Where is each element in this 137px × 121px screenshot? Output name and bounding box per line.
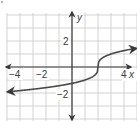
x-tick-4: 4 xyxy=(121,69,127,80)
x-tick-neg4: −4 xyxy=(9,69,21,80)
y-tick-neg2: −2 xyxy=(57,89,69,100)
x-axis-label: x xyxy=(128,69,135,80)
function-graph: y x 4 −4 −2 2 −2 xyxy=(0,0,137,121)
y-tick-2: 2 xyxy=(63,36,69,47)
y-axis-label: y xyxy=(76,12,83,23)
x-tick-neg2: −2 xyxy=(36,69,48,80)
